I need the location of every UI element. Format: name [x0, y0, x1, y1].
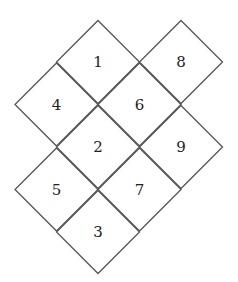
cell-label: 1: [93, 53, 103, 71]
cell-label: 4: [52, 96, 62, 114]
cell-label: 3: [93, 223, 103, 241]
cell-label: 8: [176, 53, 186, 71]
cell-label: 9: [176, 138, 186, 156]
cell-label: 2: [93, 138, 103, 156]
diamond-grid-diagram: 184629573: [0, 0, 238, 282]
cell-label: 6: [135, 96, 145, 114]
cell-label: 7: [135, 181, 145, 199]
cell-label: 5: [52, 181, 62, 199]
